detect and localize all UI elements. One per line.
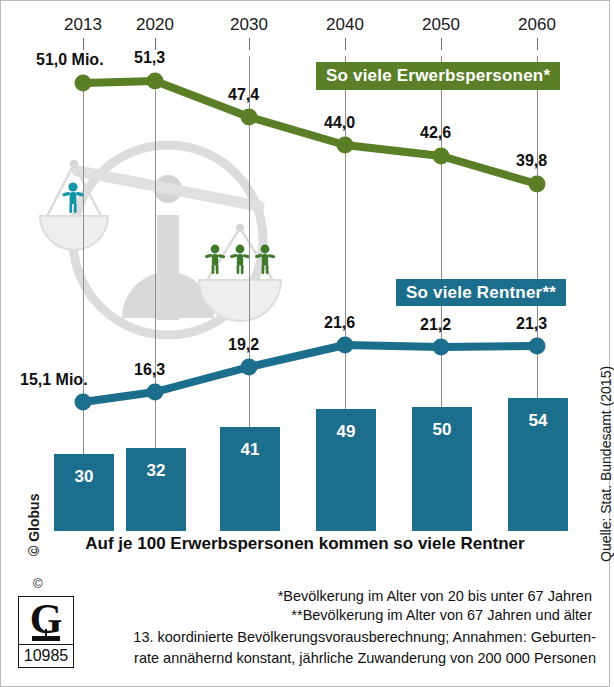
blue-value-2060: 21,3 xyxy=(516,315,547,333)
blue-value-2050: 21,2 xyxy=(420,316,451,334)
green-point-2050 xyxy=(433,148,450,165)
blue-point-2060 xyxy=(529,338,546,355)
blue-point-2030 xyxy=(241,359,258,376)
blue-value-2013: 15,1 Mio. xyxy=(20,371,88,389)
green-value-2013: 51,0 Mio. xyxy=(36,51,104,69)
globus-logo: G 10985 xyxy=(18,596,74,668)
footnote-line-1: *Bevölkerung im Alter von 20 bis unter 6… xyxy=(278,588,592,604)
green-point-2030 xyxy=(241,109,258,126)
green-point-2060 xyxy=(529,176,546,193)
legend-erwerbspersonen: So viele Erwerbspersonen* xyxy=(316,62,560,90)
legend-rentner: So viele Rentner** xyxy=(396,279,566,306)
blue-point-2020 xyxy=(147,384,164,401)
footnote-line-2: **Bevölkerung im Alter von 67 Jahren und… xyxy=(291,607,592,623)
blue-point-2013 xyxy=(75,394,92,411)
blue-point-2040 xyxy=(337,337,354,354)
green-value-2040: 44,0 xyxy=(324,114,355,132)
green-point-2040 xyxy=(337,137,354,154)
blue-value-2020: 16,3 xyxy=(134,361,165,379)
chart-caption: Auf je 100 Erwerbspersonen kommen so vie… xyxy=(0,534,610,554)
green-point-2020 xyxy=(147,73,164,90)
footnote-line-3: 13. koordinierte Bevölkerungsvorausberec… xyxy=(133,629,596,645)
green-value-2050: 42,6 xyxy=(420,124,451,142)
blue-value-2030: 19,2 xyxy=(228,336,259,354)
globus-logo-number: 10985 xyxy=(19,644,73,667)
source-credit: Quelle: Stat. Bundesamt (2015) xyxy=(598,366,614,562)
green-value-2030: 47,4 xyxy=(228,86,259,104)
green-trend-line xyxy=(83,81,537,184)
globus-logo-bar xyxy=(32,636,60,641)
blue-point-2050 xyxy=(433,339,450,356)
globus-credit: © Globus xyxy=(26,494,42,556)
blue-value-2040: 21,6 xyxy=(324,314,355,332)
copyright-symbol: © xyxy=(33,576,43,591)
green-value-2020: 51,3 xyxy=(134,49,165,67)
green-value-2060: 39,8 xyxy=(516,152,547,170)
green-point-2013 xyxy=(75,75,92,92)
footnote-line-4: rate annähernd konstant, jährliche Zuwan… xyxy=(134,650,596,666)
